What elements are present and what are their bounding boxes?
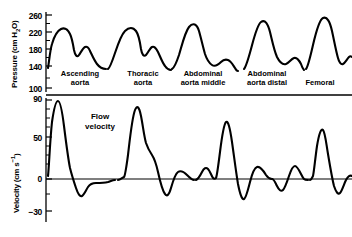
physiology-figure: Pressure (cm H2O) Velocity (cm s−1) 260 … (0, 0, 352, 237)
velocity-trace-abdominal-aorta-middle (196, 122, 272, 199)
velocity-trace-abdominal-aorta-distal (272, 166, 308, 191)
pressure-trace-thoracic-aorta (108, 28, 171, 70)
pressure-trace-abdominal-aorta-distal (244, 21, 304, 70)
pressure-trace-abdominal-aorta-middle (172, 24, 238, 71)
plot-canvas (0, 0, 352, 237)
velocity-trace-thoracic-aorta (118, 107, 194, 195)
pressure-trace-femoral (306, 18, 352, 69)
velocity-trace-femoral (310, 130, 352, 194)
velocity-trace-ascending-aorta (48, 101, 115, 196)
pressure-trace-ascending-aorta (48, 28, 106, 69)
